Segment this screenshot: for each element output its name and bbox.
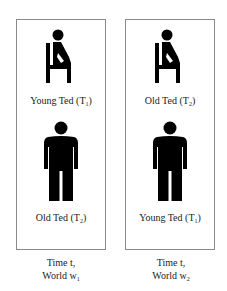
world-w1-panel: Young Ted (T1) Old Ted (T2) bbox=[16, 19, 106, 250]
top-figure-label: Young Ted (T1) bbox=[17, 95, 105, 107]
standing-person-icon bbox=[151, 121, 189, 203]
world-w1-caption: Time t, World w1 bbox=[11, 256, 111, 286]
standing-person-icon bbox=[42, 121, 80, 203]
sitting-person-icon bbox=[153, 29, 189, 85]
bottom-figure-label: Old Ted (T2) bbox=[17, 212, 105, 224]
sitting-person-icon bbox=[44, 29, 80, 85]
world-w2-caption: Time t, World w2 bbox=[121, 256, 221, 286]
top-figure-label: Old Ted (T2) bbox=[126, 95, 214, 107]
bottom-figure-label: Young Ted (T1) bbox=[126, 212, 214, 224]
world-w2-panel: Old Ted (T2) Young Ted (T1) bbox=[125, 19, 215, 250]
